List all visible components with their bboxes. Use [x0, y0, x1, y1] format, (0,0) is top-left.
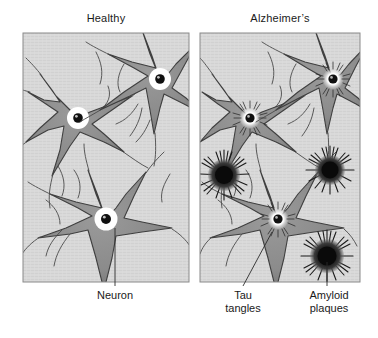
caption-tau-line-2: tangles — [205, 302, 281, 315]
nucleus — [245, 113, 254, 122]
nucleus — [273, 214, 282, 223]
panel-title-healthy: Healthy — [23, 12, 189, 24]
panel-healthy — [10, 10, 210, 290]
caption-amyloid-line-2: plaques — [285, 302, 373, 315]
nucleus — [155, 74, 165, 84]
panel-title-alzheimers: Alzheimer’s — [200, 12, 360, 24]
nucleus — [328, 74, 337, 83]
caption-amyloid-line-1: Amyloid — [285, 289, 373, 302]
caption-amyloid-plaques: Amyloid plaques — [285, 289, 373, 315]
caption-neuron-line-1: Neuron — [55, 289, 175, 302]
nucleus — [101, 214, 111, 224]
caption-tau-line-1: Tau — [205, 289, 281, 302]
caption-neuron: Neuron — [55, 289, 175, 302]
neuron-comparison-figure — [0, 0, 378, 338]
caption-tau-tangles: Tau tangles — [205, 289, 281, 315]
panel-alzheimers — [199, 10, 376, 290]
